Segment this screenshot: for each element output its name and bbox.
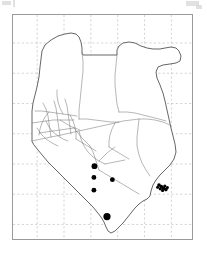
map-frame — [12, 14, 193, 240]
scan-artifact — [196, 5, 202, 9]
scan-artifact — [13, 0, 15, 7]
distribution-marker — [103, 213, 110, 220]
map-plot-area — [13, 15, 192, 239]
distribution-marker — [92, 175, 97, 180]
distribution-marker — [92, 188, 97, 193]
kenya-map-svg — [13, 15, 192, 239]
distribution-marker — [110, 177, 115, 182]
scan-artifact — [2, 1, 11, 5]
map-figure — [0, 0, 207, 256]
coast-marker-cluster — [156, 183, 169, 192]
distribution-marker — [92, 163, 98, 169]
